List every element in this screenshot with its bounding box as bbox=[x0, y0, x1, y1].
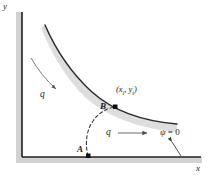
q-arrow-upper bbox=[31, 58, 56, 89]
coordinate-label: (xi, yi) bbox=[116, 85, 137, 97]
streamline-shading bbox=[41, 25, 177, 132]
point-a-label: A bbox=[77, 145, 83, 154]
x-axis-label: x bbox=[196, 164, 200, 173]
q-label-upper: q bbox=[40, 90, 45, 100]
point-b-label: B bbox=[100, 102, 106, 111]
figure-canvas bbox=[0, 0, 210, 179]
coordinate-close: ) bbox=[134, 84, 137, 94]
coordinate-open: (x bbox=[116, 84, 123, 94]
y-axis-label: y bbox=[3, 2, 7, 11]
q-label-lower: q bbox=[106, 128, 111, 138]
streamline-figure: y x A B q q (xi, yi) ψ = 0 bbox=[0, 0, 210, 179]
psi-zero-label: ψ = 0 bbox=[160, 128, 180, 137]
point-a-marker bbox=[86, 154, 91, 159]
psi-value: = 0 bbox=[166, 127, 180, 137]
psi-leader-line bbox=[172, 142, 181, 156]
point-b-marker bbox=[113, 105, 118, 110]
